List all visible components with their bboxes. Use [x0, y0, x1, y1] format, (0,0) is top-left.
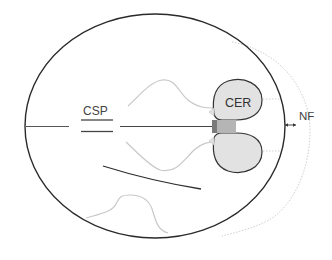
fetal-head-diagram: CSP CER NF [0, 0, 332, 260]
peduncle-upper-tip [209, 108, 214, 116]
lower-soft-curve [126, 142, 216, 171]
nf-measurement-arrow [285, 123, 296, 126]
vermis-block [216, 120, 236, 133]
brainstem-dark-edge [212, 120, 217, 133]
peduncle-lower-tip [209, 137, 214, 145]
upper-soft-curve [128, 80, 216, 108]
cerebellum-lower-hemisphere [213, 133, 262, 172]
label-cer: CER [225, 96, 251, 110]
label-csp: CSP [83, 104, 108, 118]
oblique-dark-line [103, 166, 201, 189]
label-nf: NF [299, 110, 314, 122]
